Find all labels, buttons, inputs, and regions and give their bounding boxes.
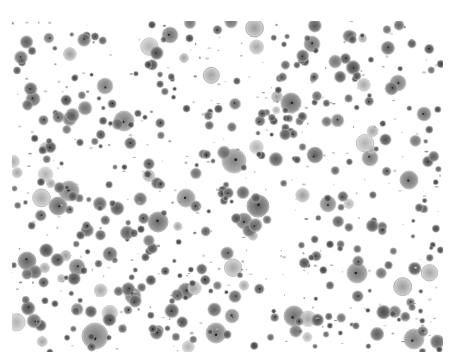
cell bbox=[208, 329, 213, 334]
cell-nucleus bbox=[341, 196, 343, 198]
cell bbox=[134, 71, 139, 76]
cell bbox=[146, 275, 156, 285]
debris-speck bbox=[27, 193, 29, 194]
cell bbox=[346, 159, 352, 165]
cell bbox=[12, 262, 17, 268]
cell bbox=[307, 147, 323, 163]
cell bbox=[103, 313, 116, 326]
debris-speck bbox=[306, 166, 309, 168]
cell bbox=[53, 111, 64, 122]
debris-speck bbox=[333, 183, 334, 185]
debris-speck bbox=[307, 273, 309, 274]
cell bbox=[326, 241, 333, 248]
cell bbox=[130, 229, 138, 237]
cell bbox=[272, 309, 276, 313]
cell bbox=[39, 146, 47, 154]
debris-speck bbox=[178, 201, 181, 202]
cell-nucleus bbox=[235, 295, 237, 297]
cell-nucleus bbox=[156, 220, 158, 222]
cell bbox=[225, 21, 238, 28]
debris-speck bbox=[236, 149, 240, 151]
debris-speck bbox=[435, 286, 437, 288]
cell bbox=[225, 290, 229, 294]
debris-speck bbox=[276, 100, 279, 103]
debris-speck bbox=[57, 167, 59, 169]
cell-nucleus bbox=[148, 163, 150, 165]
cell bbox=[138, 283, 146, 291]
debris-speck bbox=[389, 33, 393, 35]
debris-speck bbox=[302, 131, 303, 132]
cell bbox=[24, 83, 37, 96]
cell bbox=[329, 55, 342, 68]
cell bbox=[144, 171, 151, 178]
cell bbox=[63, 48, 76, 61]
cell bbox=[62, 125, 71, 134]
debris-speck bbox=[99, 227, 102, 229]
cell-nucleus bbox=[20, 56, 22, 58]
debris-speck bbox=[137, 253, 140, 254]
cell bbox=[345, 223, 353, 231]
cell bbox=[22, 269, 32, 279]
cell bbox=[390, 311, 396, 317]
cell bbox=[376, 268, 387, 279]
debris-speck bbox=[184, 162, 187, 164]
cell-nucleus bbox=[291, 102, 293, 104]
debris-speck bbox=[33, 54, 34, 55]
debris-speck bbox=[401, 341, 405, 342]
cell bbox=[331, 166, 339, 174]
debris-speck bbox=[414, 303, 417, 304]
cell bbox=[135, 110, 142, 117]
debris-speck bbox=[156, 245, 160, 248]
debris-speck bbox=[193, 232, 197, 234]
cell-nucleus bbox=[128, 309, 130, 311]
debris-speck bbox=[137, 231, 138, 232]
cell bbox=[14, 202, 20, 208]
cell-nucleus bbox=[407, 180, 409, 182]
debris-speck bbox=[349, 21, 353, 22]
debris-speck bbox=[246, 269, 247, 271]
debris-speck bbox=[356, 87, 359, 88]
cell-nucleus bbox=[345, 57, 347, 59]
debris-speck bbox=[104, 81, 108, 83]
debris-speck bbox=[362, 74, 365, 76]
cell-nucleus bbox=[160, 183, 162, 185]
cell bbox=[250, 342, 258, 350]
cell bbox=[229, 290, 241, 302]
cell bbox=[31, 135, 38, 142]
cell bbox=[409, 304, 416, 311]
debris-speck bbox=[416, 133, 418, 135]
cell bbox=[430, 335, 443, 349]
cell bbox=[33, 189, 51, 207]
debris-speck bbox=[353, 126, 354, 128]
cell bbox=[327, 323, 332, 328]
debris-speck bbox=[356, 192, 358, 194]
debris-speck bbox=[18, 126, 21, 128]
debris-speck bbox=[415, 318, 419, 320]
cell bbox=[46, 138, 52, 144]
debris-speck bbox=[248, 76, 251, 77]
cell bbox=[368, 289, 372, 293]
cell-nucleus bbox=[257, 203, 260, 206]
debris-speck bbox=[192, 101, 194, 103]
cell-nucleus bbox=[184, 197, 186, 199]
cell-nucleus bbox=[104, 87, 106, 89]
debris-speck bbox=[364, 308, 366, 309]
debris-speck bbox=[44, 90, 48, 93]
debris-speck bbox=[302, 183, 306, 185]
debris-speck bbox=[19, 248, 20, 250]
cell bbox=[285, 34, 290, 39]
debris-speck bbox=[329, 264, 333, 265]
cell bbox=[410, 135, 421, 146]
cell bbox=[256, 131, 260, 135]
debris-speck bbox=[382, 66, 385, 68]
cell bbox=[91, 138, 98, 145]
cell bbox=[125, 138, 136, 149]
cell bbox=[358, 78, 371, 91]
debris-speck bbox=[196, 212, 200, 214]
cell bbox=[299, 143, 306, 150]
debris-speck bbox=[57, 81, 61, 83]
cell bbox=[432, 225, 439, 232]
cell-nucleus bbox=[292, 134, 294, 136]
debris-speck bbox=[428, 335, 431, 336]
cell bbox=[369, 192, 376, 199]
